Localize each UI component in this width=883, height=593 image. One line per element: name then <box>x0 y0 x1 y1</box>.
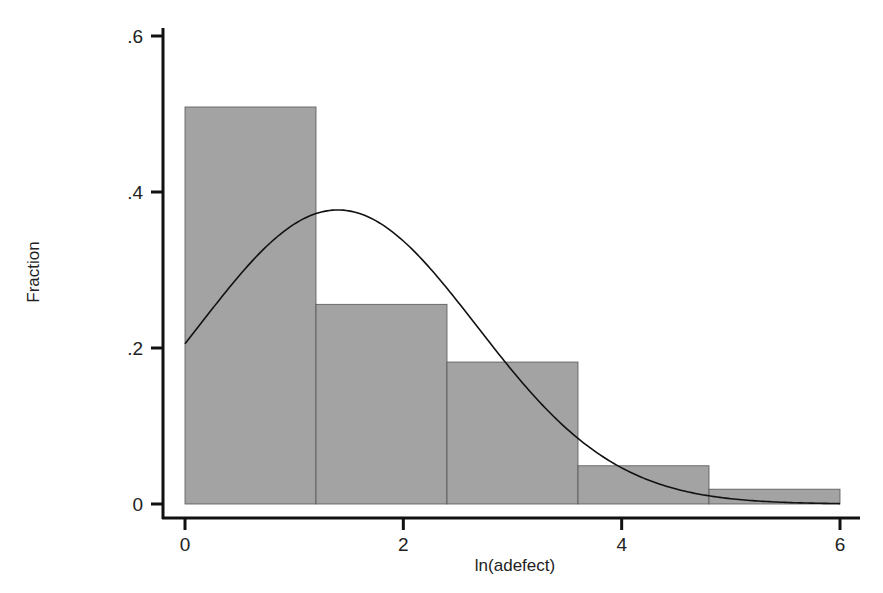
x-tick-label: 4 <box>616 534 627 555</box>
histogram-bar <box>578 466 709 504</box>
x-axis-ticks: 0246 <box>180 518 846 555</box>
histogram-bar <box>316 304 447 504</box>
y-tick-label: .2 <box>127 338 143 359</box>
y-tick-label: 0 <box>132 494 143 515</box>
x-tick-label: 0 <box>180 534 191 555</box>
x-tick-label: 2 <box>398 534 409 555</box>
x-axis-title: ln(adefect) <box>475 556 555 575</box>
histogram-bar <box>447 362 578 504</box>
y-tick-label: .4 <box>127 182 143 203</box>
histogram-bar <box>185 107 316 504</box>
y-tick-label: .6 <box>127 26 143 47</box>
y-axis-ticks: 0.2.4.6 <box>127 26 163 515</box>
x-tick-label: 6 <box>835 534 846 555</box>
y-axis-title: Fraction <box>24 241 43 302</box>
histogram-chart: 0.2.4.6 0246 Fraction ln(adefect) <box>0 0 883 593</box>
histogram-bars <box>185 107 840 504</box>
